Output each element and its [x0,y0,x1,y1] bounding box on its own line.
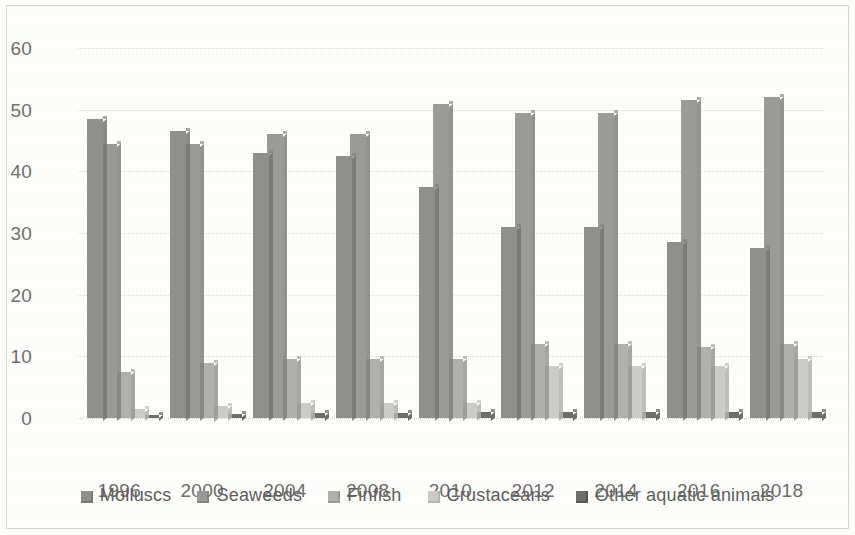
bar-side-edge [352,156,356,421]
bar-top-edge [366,131,370,134]
y-tick-label: 30 [0,224,32,243]
bar-top-edge [683,239,687,242]
bar-side-edge [614,113,618,421]
bar-face [584,227,600,418]
bar-top-edge [794,341,798,344]
bar-top-edge [780,94,784,97]
legend-swatch-icon [576,491,588,503]
bar-top-edge [517,224,521,227]
bar-top-edge [628,341,632,344]
bar-side-edge [200,143,204,421]
bar-top-edge [311,400,315,403]
bar-side-edge [103,119,107,421]
bar-top-edge [614,110,618,113]
bar-group [419,48,491,418]
bar-side-edge [131,372,135,421]
bar-side-edge [366,134,370,421]
legend-item[interactable]: Seaweeds [197,485,302,506]
bar-side-edge [808,359,812,421]
legend-swatch-icon [81,491,93,503]
bar-top-edge [656,409,660,412]
bar-face [336,156,352,418]
bar-face [501,227,517,418]
legend-item[interactable]: Molluscs [81,485,172,506]
bar-side-edge [297,359,301,421]
bar-group [501,48,573,418]
bar-face [87,119,103,418]
bar-group [584,48,656,418]
bar-top-edge [559,363,563,366]
bar-side-edge [683,242,687,421]
y-tick-label: 60 [0,39,32,58]
legend-label: Seaweeds [216,485,302,506]
bar-top-edge [131,369,135,372]
bar [501,227,517,418]
bar-top-edge [725,363,729,366]
bar [419,187,435,418]
plot-area: 0102030405060 19962000200420082010201220… [78,48,823,418]
bar-top-edge [186,128,190,131]
legend-item[interactable]: Other aquatic animals [576,485,774,506]
bar-side-edge [214,362,218,421]
bar-top-edge [145,406,149,409]
bar-side-edge [711,347,715,421]
bar [667,242,683,418]
bar-top-edge [228,403,232,406]
bar-group [750,48,822,418]
bar-top-edge [394,400,398,403]
bar-group [667,48,739,418]
bar-face [667,242,683,418]
bar-top-edge [766,245,770,248]
bar-face [170,131,186,418]
bar [750,248,766,418]
bar-side-edge [449,103,453,421]
bar-top-edge [642,363,646,366]
bar-side-edge [117,143,121,421]
bar-top-edge [103,116,107,119]
bar-top-edge [325,410,329,413]
bar [170,131,186,418]
legend-label: Finfish [347,485,401,506]
bar-top-edge [435,184,439,187]
bar-top-edge [808,356,812,359]
bar-side-edge [477,402,481,421]
bar-top-edge [297,356,301,359]
bar-top-edge [449,101,453,104]
bar-top-edge [531,110,535,113]
bar-top-edge [463,356,467,359]
bar-side-edge [600,227,604,421]
bar-side-edge [725,365,729,421]
legend-label: Other aquatic animals [595,485,774,506]
bar-side-edge [531,113,535,421]
legend-label: Crustaceans [447,485,550,506]
bar-side-edge [517,227,521,421]
bar-side-edge [186,131,190,421]
legend-item[interactable]: Finfish [328,485,401,506]
bar-top-edge [822,409,826,412]
bar-side-edge [794,344,798,421]
bar-top-edge [269,150,273,153]
bar-top-edge [408,410,412,413]
bar-side-edge [766,248,770,421]
y-tick-label: 10 [0,347,32,366]
bar-top-edge [739,409,743,412]
legend-item[interactable]: Crustaceans [428,485,550,506]
bar-face [419,187,435,418]
bar-side-edge [642,365,646,421]
bar-side-edge [311,402,315,421]
bar-side-edge [394,402,398,421]
bar-top-edge [380,356,384,359]
y-tick-label: 40 [0,162,32,181]
bar-side-edge [545,344,549,421]
legend-swatch-icon [328,491,340,503]
bar-top-edge [159,412,163,415]
bar-side-edge [559,365,563,421]
bar-top-edge [200,141,204,144]
bar-top-edge [214,360,218,363]
bar-side-edge [435,187,439,421]
bar-side-edge [628,344,632,421]
y-tick-label: 20 [0,286,32,305]
legend-label: Molluscs [100,485,172,506]
y-tick-label: 0 [0,409,32,428]
bar-group [253,48,325,418]
